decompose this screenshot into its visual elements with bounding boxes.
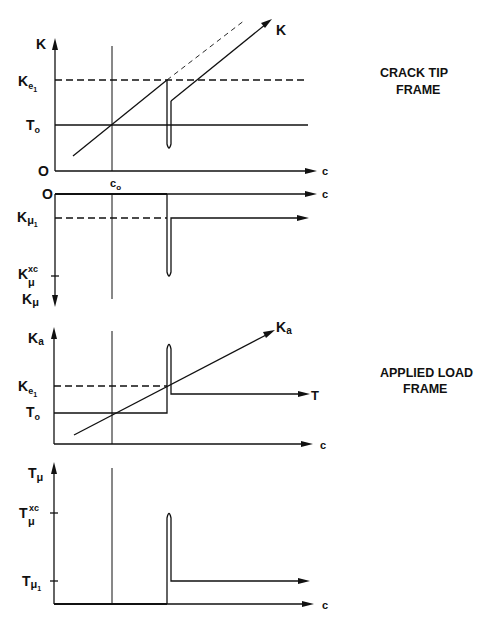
- ke1-label: Ke1: [18, 378, 37, 398]
- kmu-curve: [167, 194, 302, 276]
- ka-curve-label: Ka: [276, 319, 292, 336]
- k-curve-label: K: [276, 22, 286, 38]
- applied-load-frame-subtitle: FRAME: [403, 382, 447, 396]
- t-curve: [54, 345, 303, 414]
- tmu-xc-sub: μ: [28, 515, 35, 527]
- x-axis-label: c: [322, 188, 328, 200]
- kmu-xc-sub: μ: [28, 276, 35, 288]
- k-curve-notch: [167, 80, 171, 148]
- y-axis-arrow-icon: [51, 327, 57, 339]
- x-axis-label: c: [322, 599, 328, 611]
- y-axis-arrow-icon: [51, 462, 57, 474]
- origin-label: O: [38, 163, 49, 179]
- crack-tip-frame-title: CRACK TIP: [380, 66, 448, 80]
- x-axis-label: c: [320, 439, 326, 451]
- x-axis-arrow-icon: [305, 191, 317, 197]
- t0-label: To: [26, 117, 41, 135]
- ka-curve-arrow-icon: [263, 330, 275, 338]
- panel-applied-load-tmu: Tμ c T xc μ Tμ1: [19, 462, 328, 611]
- kmu1-label: Kμ1: [17, 209, 38, 228]
- tmu-curve: [167, 514, 303, 605]
- panel-crack-tip-kmu: O c Kμ1 K xc μ Kμ: [17, 186, 328, 308]
- x-axis-arrow-icon: [305, 168, 317, 174]
- kmu-xc-label: K: [18, 266, 28, 282]
- c0-label: co: [110, 177, 121, 192]
- y-axis-label: Tμ: [28, 465, 43, 483]
- t0-label: To: [26, 404, 41, 422]
- origin-label: O: [42, 186, 53, 202]
- tmu-xc-sup: xc: [29, 503, 39, 513]
- panel-applied-load-ka: Ka Ka T c Ke1 To: [18, 319, 326, 451]
- x-axis-label: c: [322, 165, 328, 177]
- y-axis-arrow-icon: [52, 295, 58, 307]
- kmu-xc-sup: xc: [28, 264, 38, 274]
- tmu-xc-label: T: [19, 505, 28, 521]
- applied-load-frame-title: APPLIED LOAD: [380, 366, 473, 380]
- kmu-curve-arrow-icon: [297, 215, 309, 221]
- y-axis-label: Ka: [28, 330, 44, 347]
- y-axis-label: Kμ: [22, 291, 39, 308]
- x-axis-arrow-icon: [301, 441, 313, 447]
- tmu-curve-arrow-icon: [298, 578, 310, 584]
- crack-growth-diagram: K K c O co Ke1 To CRACK TIP FRAME O c Kμ…: [0, 0, 482, 622]
- crack-tip-frame-subtitle: FRAME: [396, 83, 440, 97]
- t-curve-label: T: [311, 388, 319, 403]
- k-curve-rising: [73, 80, 167, 156]
- ke1-label: Ke1: [18, 73, 37, 93]
- tmu1-label: Tμ1: [22, 573, 41, 592]
- panel-crack-tip-k: K K c O co Ke1 To: [18, 19, 328, 192]
- t-curve-arrow-icon: [298, 391, 310, 397]
- y-axis-label: K: [36, 36, 46, 52]
- k-curve-after: [171, 24, 266, 101]
- y-axis-arrow-icon: [52, 38, 58, 50]
- x-axis-arrow-icon: [302, 601, 314, 607]
